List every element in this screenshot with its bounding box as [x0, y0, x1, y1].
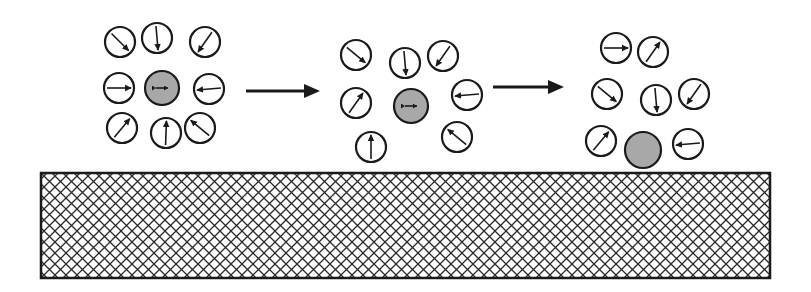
- dipole-molecule: [107, 113, 137, 143]
- dipole-molecule: [592, 79, 622, 109]
- arrow-head-icon: [304, 84, 320, 98]
- dipole-molecule: [452, 80, 482, 110]
- dipole-molecule: [151, 118, 181, 148]
- transition-arrow-1: [246, 84, 320, 98]
- dipole-molecule: [194, 74, 224, 104]
- substrate-surface: [41, 173, 770, 278]
- dipole-arrow-icon: [166, 121, 167, 145]
- stage-1: [104, 23, 224, 148]
- particle: [145, 71, 179, 105]
- dipole-molecule: [442, 122, 472, 152]
- dipole-molecule: [601, 33, 631, 63]
- stages-group: [104, 23, 709, 168]
- stage-3: [586, 33, 709, 168]
- dipole-molecule: [341, 40, 371, 70]
- dipole-molecule: [390, 48, 420, 78]
- dipole-molecule: [105, 27, 135, 57]
- arrow-head-icon: [548, 80, 564, 94]
- dipole-molecule: [185, 113, 215, 143]
- particle: [625, 132, 661, 168]
- adsorption-diagram: [0, 0, 811, 292]
- dipole-molecule: [679, 79, 709, 109]
- transition-arrow-2: [493, 80, 564, 94]
- dipole-molecule: [142, 23, 172, 53]
- dipole-molecule: [428, 41, 458, 71]
- dipole-molecule: [586, 126, 616, 156]
- particle: [394, 89, 428, 123]
- substrate: [41, 173, 770, 278]
- dipole-molecule: [104, 73, 134, 103]
- dipole-molecule: [638, 37, 668, 67]
- dipole-molecule: [356, 132, 386, 162]
- stage-2: [341, 40, 482, 162]
- dipole-molecule: [641, 85, 671, 115]
- dipole-molecule: [190, 27, 220, 57]
- dipole-molecule: [673, 129, 703, 159]
- dipole-molecule: [341, 88, 371, 118]
